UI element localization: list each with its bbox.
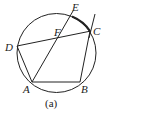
arc-ec	[72, 17, 90, 32]
label-a: A	[22, 83, 30, 95]
label-b: B	[81, 83, 88, 95]
geometry-diagram: E C F D A B (a)	[0, 0, 142, 116]
label-e: E	[71, 1, 79, 13]
label-d: D	[4, 41, 13, 53]
label-f: F	[53, 26, 61, 38]
segment-ae	[32, 11, 73, 82]
caption: (a)	[45, 97, 58, 110]
label-c: C	[93, 25, 101, 37]
segment-bc	[80, 31, 90, 82]
